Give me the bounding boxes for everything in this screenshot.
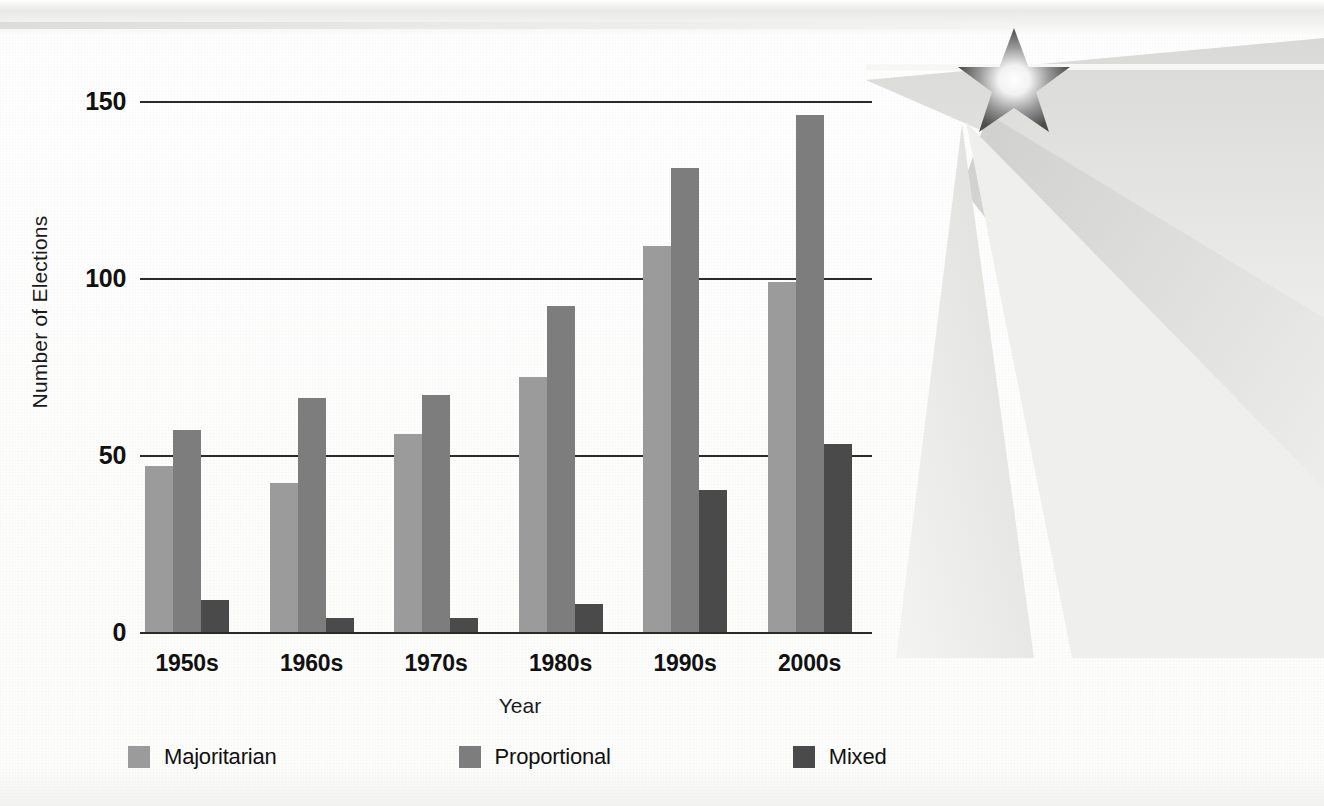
legend-label: Proportional <box>495 744 611 770</box>
legend-swatch-proportional-icon <box>459 746 481 768</box>
legend-item-proportional[interactable]: Proportional <box>459 744 611 770</box>
legend-swatch-mixed-icon <box>793 746 815 768</box>
gridline-0 <box>140 632 872 634</box>
scanned-page: Number of Elections 0501001501950s1960s1… <box>0 0 1324 806</box>
legend-label: Mixed <box>829 744 887 770</box>
x-tick-label-1960s: 1960s <box>254 650 370 677</box>
bar-mixed-1990s <box>699 490 727 632</box>
bar-mixed-1970s <box>450 618 478 632</box>
x-tick-label-1950s: 1950s <box>129 650 245 677</box>
legend-label: Majoritarian <box>164 744 277 770</box>
y-tick-label: 50 <box>52 441 126 470</box>
legend-item-majoritarian[interactable]: Majoritarian <box>128 744 277 770</box>
legend-item-mixed[interactable]: Mixed <box>793 744 887 770</box>
chart-legend: MajoritarianProportionalMixed <box>128 744 886 770</box>
bar-chart: Number of Elections 0501001501950s1960s1… <box>0 0 980 806</box>
bar-proportional-1950s <box>173 430 201 632</box>
y-tick-label: 100 <box>52 264 126 293</box>
bar-proportional-2000s <box>796 115 824 632</box>
x-tick-label-1970s: 1970s <box>378 650 494 677</box>
bar-majoritarian-1990s <box>643 246 671 632</box>
legend-swatch-majoritarian-icon <box>128 746 150 768</box>
y-axis-label: Number of Elections <box>28 132 52 492</box>
gridline-100 <box>140 278 872 280</box>
bar-mixed-2000s <box>824 444 852 632</box>
bar-proportional-1970s <box>422 395 450 632</box>
bar-majoritarian-1960s <box>270 483 298 632</box>
gridline-50 <box>140 455 872 457</box>
bar-majoritarian-1950s <box>145 466 173 632</box>
bar-mixed-1980s <box>575 604 603 632</box>
bar-proportional-1980s <box>547 306 575 632</box>
bar-mixed-1950s <box>201 600 229 632</box>
bar-proportional-1960s <box>298 398 326 632</box>
bar-majoritarian-1970s <box>394 434 422 632</box>
x-tick-label-1980s: 1980s <box>503 650 619 677</box>
x-tick-label-2000s: 2000s <box>752 650 868 677</box>
bar-majoritarian-2000s <box>768 282 796 632</box>
bar-majoritarian-1980s <box>519 377 547 632</box>
y-tick-label: 0 <box>52 618 126 647</box>
bar-proportional-1990s <box>671 168 699 632</box>
y-tick-label: 150 <box>52 87 126 116</box>
x-tick-label-1990s: 1990s <box>627 650 743 677</box>
bar-mixed-1960s <box>326 618 354 632</box>
gridline-150 <box>140 101 872 103</box>
x-axis-label: Year <box>140 694 900 718</box>
